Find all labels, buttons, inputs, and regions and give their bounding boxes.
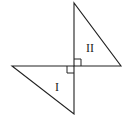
right-angle-marker-i (67, 66, 74, 73)
right-angle-marker-ii (74, 59, 81, 66)
triangle-i (12, 66, 74, 114)
diagram-canvas: II I (0, 0, 125, 115)
triangle-ii (74, 3, 121, 66)
label-triangle-i: I (55, 80, 59, 94)
label-triangle-ii: II (86, 41, 94, 55)
